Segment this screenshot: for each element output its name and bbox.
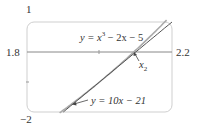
tangent-label-text: y = 10x − 21 (91, 95, 146, 106)
y-min-label: −2 (20, 114, 32, 125)
cubic-label-pre: y = x (80, 32, 102, 43)
x2-label: x2 (139, 59, 147, 75)
cubic-label-post: − 2x − 5 (105, 32, 143, 43)
x-max-label: 2.2 (176, 47, 190, 58)
cubic-equation-label: y = x3 − 2x − 5 (80, 29, 143, 43)
y-max-label: 1 (26, 4, 32, 15)
tangent-equation-label: y = 10x − 21 (91, 95, 146, 106)
chart-canvas (0, 0, 201, 127)
x-min-label: 1.8 (6, 47, 20, 58)
x2-label-sub: 2 (144, 65, 148, 73)
